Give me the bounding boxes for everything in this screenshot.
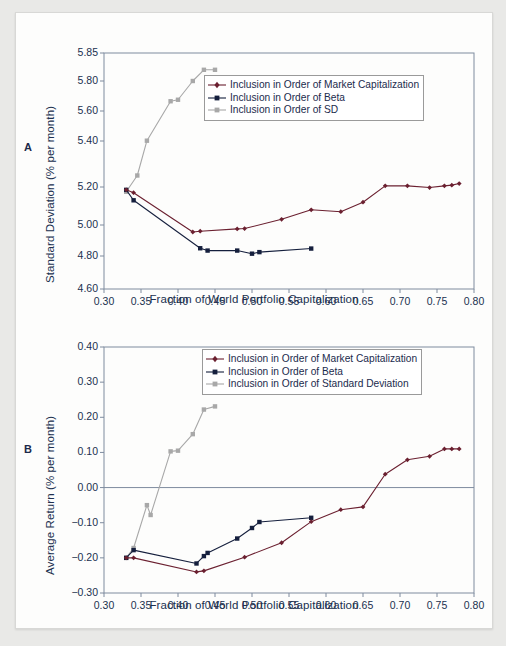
x-tick-label: 0.40 [158,295,198,307]
data-point [191,432,195,436]
data-point [235,536,239,540]
data-point [135,173,139,177]
legend-item: Inclusion in Order of Market Capitalizat… [208,79,419,92]
data-point [202,568,207,573]
x-tick-label: 0.80 [454,599,494,611]
legend-label: Inclusion in Order of Beta [228,366,343,379]
data-point [279,217,284,222]
data-point [145,503,149,507]
data-point [338,209,343,214]
y-tick-label: 5.20 [56,180,98,192]
panel-a-y-axis-label: Standard Deviation (% per month) [44,106,56,283]
x-tick-label: 0.45 [195,599,235,611]
data-point [194,561,198,565]
data-point [168,449,172,453]
x-tick-label: 0.50 [232,295,272,307]
legend-marker-icon [206,354,224,364]
y-tick-label: 5.00 [56,218,98,230]
panel-a-legend: Inclusion in Order of Market Capitalizat… [204,75,424,121]
x-tick-label: 0.35 [121,599,161,611]
panel-b-legend: Inclusion in Order of Market Capitalizat… [202,349,422,395]
legend-marker-icon [208,105,226,115]
data-point [176,448,180,452]
y-tick-label: 0.00 [56,481,98,493]
panel-b-y-axis-label: Average Return (% per month) [44,416,56,575]
legend-label: Inclusion in Order of Beta [230,92,345,105]
data-point [148,513,152,517]
data-point [145,139,149,143]
y-tick-label: 0.20 [56,410,98,422]
data-point [194,570,199,575]
data-point [242,226,247,231]
panel-b-letter: B [24,443,32,455]
x-tick-label: 0.50 [232,599,272,611]
x-tick-label: 0.55 [269,295,309,307]
data-point [309,207,314,212]
x-tick-label: 0.60 [306,295,346,307]
data-point [198,229,203,234]
y-tick-label: 5.40 [56,134,98,146]
x-tick-label: 0.35 [121,295,161,307]
y-tick-label: −0.30 [56,586,98,598]
data-point [213,404,217,408]
data-point [257,520,261,524]
x-tick-label: 0.65 [343,599,383,611]
data-point [427,185,432,190]
data-point [131,548,135,552]
legend-marker-icon [208,93,226,103]
data-point [235,248,239,252]
y-tick-label: −0.20 [56,551,98,563]
x-tick-label: 0.30 [84,599,124,611]
panel-a-plot [16,21,492,321]
x-tick-label: 0.75 [417,599,457,611]
data-point [309,246,313,250]
y-tick-label: 4.80 [56,249,98,261]
series-line [126,518,311,564]
y-tick-label: 4.60 [56,282,98,294]
data-point [131,555,136,560]
data-point [457,181,462,186]
data-point [205,551,209,555]
data-point [338,507,343,512]
legend-marker-icon [208,80,226,90]
data-point [449,447,454,452]
legend-item: Inclusion in Order of Beta [206,366,417,379]
legend-marker-icon [206,379,224,389]
data-point [442,183,447,188]
x-tick-label: 0.65 [343,295,383,307]
data-point [405,183,410,188]
data-point [191,79,195,83]
series-line [126,70,215,192]
figure-page: A Standard Deviation (% per month) Fract… [15,12,493,629]
data-point [213,68,217,72]
legend-label: Inclusion in Order of Market Capitalizat… [230,79,419,92]
data-point [202,407,206,411]
data-point [457,447,462,452]
data-point [168,99,172,103]
y-tick-label: 0.30 [56,375,98,387]
data-point [131,198,135,202]
series-line [126,190,311,254]
data-point [202,68,206,72]
legend-marker-icon [206,367,224,377]
panel-a: A Standard Deviation (% per month) Fract… [16,21,492,321]
y-tick-label: −0.10 [56,516,98,528]
panel-b: B Average Return (% per month) Fraction … [16,325,492,625]
legend-label: Inclusion in Order of Market Capitalizat… [228,353,417,366]
x-tick-label: 0.70 [380,599,420,611]
data-point [242,555,247,560]
series-line [126,184,459,232]
data-point [442,447,447,452]
data-point [250,251,254,255]
data-point [235,226,240,231]
x-tick-label: 0.70 [380,295,420,307]
x-tick-label: 0.55 [269,599,309,611]
legend-item: Inclusion in Order of Beta [208,92,419,105]
series-line [126,449,459,572]
data-point [250,526,254,530]
y-tick-label: 0.10 [56,445,98,457]
x-tick-label: 0.80 [454,295,494,307]
x-tick-label: 0.45 [195,295,235,307]
y-tick-label: 5.60 [56,104,98,116]
legend-item: Inclusion in Order of SD [208,104,419,117]
